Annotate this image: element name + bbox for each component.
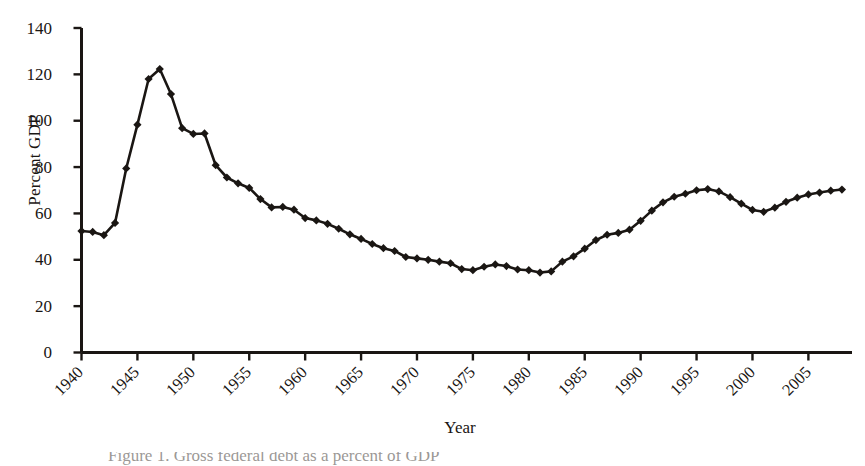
data-point: [357, 235, 365, 243]
data-point: [614, 229, 622, 237]
data-point: [760, 208, 768, 216]
data-point: [815, 188, 823, 196]
data-point: [525, 266, 533, 274]
data-point: [379, 244, 387, 252]
data-point: [413, 254, 421, 262]
caption-cropped: Figure 1. Gross federal debt as a percen…: [0, 452, 865, 466]
data-line-percent-gdp: [82, 69, 842, 273]
data-point: [122, 164, 130, 172]
data-point: [603, 231, 611, 239]
data-point: [312, 216, 320, 224]
data-point: [77, 227, 85, 235]
data-point: [89, 228, 97, 236]
data-point: [514, 265, 522, 273]
data-point: [793, 194, 801, 202]
data-markers-percent-gdp: [77, 65, 846, 277]
caption-text: Figure 1. Gross federal debt as a percen…: [108, 452, 439, 466]
data-point: [424, 256, 432, 264]
data-point: [279, 203, 287, 211]
data-point: [491, 260, 499, 268]
data-point: [827, 187, 835, 195]
data-point: [480, 263, 488, 271]
data-point: [681, 190, 689, 198]
data-point: [502, 262, 510, 270]
data-point: [536, 268, 544, 276]
data-point: [838, 185, 846, 193]
data-point: [804, 190, 812, 198]
data-point: [704, 185, 712, 193]
data-point: [469, 266, 477, 274]
data-point: [200, 129, 208, 137]
data-point: [323, 220, 331, 228]
data-point: [133, 121, 141, 129]
plot-area: [0, 0, 865, 466]
data-point: [167, 90, 175, 98]
data-point: [692, 186, 700, 194]
data-point: [368, 240, 376, 248]
data-point: [435, 258, 443, 266]
chart-figure: Percent GDP 140 120 100 80 60 40 20 0 19…: [0, 0, 865, 466]
